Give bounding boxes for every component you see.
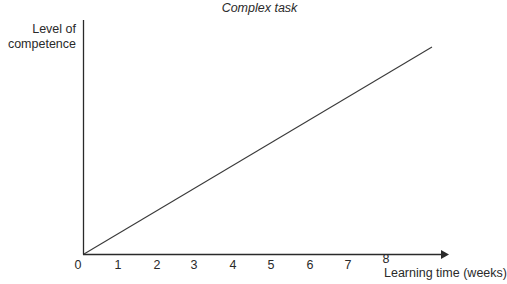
x-axis-label: Learning time (weeks) [384, 266, 507, 280]
x-tick-label: 0 [75, 258, 82, 272]
x-tick-label: 3 [191, 258, 198, 272]
x-tick-label: 1 [115, 258, 122, 272]
x-tick-label: 7 [345, 258, 352, 272]
x-tick-label: 6 [307, 258, 314, 272]
x-tick-label: 8 [383, 252, 390, 266]
x-axis-arrowhead [441, 250, 449, 259]
x-tick-label: 4 [230, 258, 237, 272]
x-tick-label: 5 [268, 258, 275, 272]
competence-line [84, 47, 432, 254]
chart-plot [0, 0, 507, 284]
x-tick-label: 2 [154, 258, 161, 272]
